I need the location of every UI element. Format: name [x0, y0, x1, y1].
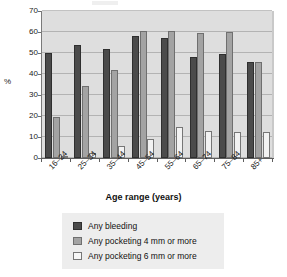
plot-wrapper: % 010203040506070 16–2425–3435–4445–5455…	[0, 0, 287, 170]
bar-group	[190, 11, 212, 158]
bar-group	[247, 11, 269, 158]
y-tick-label-0: 0	[16, 154, 38, 162]
x-tick-mark	[185, 158, 186, 162]
y-tick-label-10: 10	[16, 133, 38, 141]
x-tick-mark	[99, 158, 100, 162]
y-tick-label-20: 20	[16, 112, 38, 120]
legend-label-any-bleeding: Any bleeding	[88, 221, 137, 231]
y-tick-label-50: 50	[16, 49, 38, 57]
x-tick-mark	[70, 158, 71, 162]
bar	[103, 49, 110, 158]
bar	[263, 132, 270, 158]
bar	[226, 32, 233, 158]
bar	[197, 33, 204, 158]
bar	[219, 54, 226, 158]
bar	[111, 70, 118, 158]
x-tick-mark	[128, 158, 129, 162]
bar-group	[161, 11, 183, 158]
chart-figure: % 010203040506070 16–2425–3435–4445–5455…	[0, 0, 287, 277]
bar	[255, 62, 262, 158]
legend-item-pocketing-4mm: Any pocketing 4 mm or more	[62, 233, 224, 248]
bar	[45, 53, 52, 158]
y-tick-label-40: 40	[16, 70, 38, 78]
x-tick-mark	[272, 158, 273, 162]
legend-swatch-pocketing-4mm	[73, 237, 82, 245]
x-tick-mark	[243, 158, 244, 162]
bar	[168, 31, 175, 158]
bar-group	[74, 11, 96, 158]
bar	[140, 31, 147, 158]
chart-legend: Any bleeding Any pocketing 4 mm or more …	[62, 213, 224, 269]
y-tick-label-70: 70	[16, 7, 38, 15]
bar	[247, 62, 254, 158]
bar-groups	[41, 11, 272, 158]
bar	[132, 36, 139, 158]
x-tick-mark	[41, 158, 42, 162]
bar-group	[45, 11, 67, 158]
y-tick-label-30: 30	[16, 91, 38, 99]
bar	[82, 86, 89, 158]
legend-item-any-bleeding: Any bleeding	[62, 218, 224, 233]
bar	[161, 38, 168, 158]
bar	[190, 57, 197, 158]
x-tick-mark	[214, 158, 215, 162]
legend-label-pocketing-6mm: Any pocketing 6 mm or more	[88, 251, 197, 261]
bar-group	[132, 11, 154, 158]
x-axis-title: Age range (years)	[0, 192, 287, 202]
y-axis-title: %	[4, 77, 11, 86]
bar-group	[103, 11, 125, 158]
bar-group	[219, 11, 241, 158]
legend-swatch-any-bleeding	[73, 222, 82, 230]
legend-item-pocketing-6mm: Any pocketing 6 mm or more	[62, 248, 224, 263]
x-tick-mark	[157, 158, 158, 162]
y-axis-tick-labels: 010203040506070	[16, 0, 38, 170]
legend-swatch-pocketing-6mm	[73, 252, 82, 260]
bar	[74, 45, 81, 158]
legend-label-pocketing-4mm: Any pocketing 4 mm or more	[88, 236, 197, 246]
y-tick-label-60: 60	[16, 28, 38, 36]
